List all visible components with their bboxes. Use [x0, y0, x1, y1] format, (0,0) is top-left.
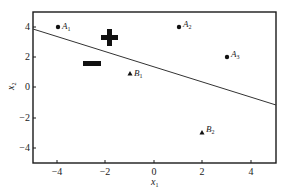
x-tick-label: 4 — [249, 166, 254, 177]
y-axis: 4 2 0 −2 −4 x2 — [5, 21, 36, 153]
point-b1: B1 — [128, 68, 143, 79]
point-a3: A3 — [225, 49, 240, 60]
plus-sign-icon — [101, 29, 118, 46]
scatter-chart: −4 −2 0 2 4 x1 4 2 0 −2 −4 x2 A1 A2 A3 — [0, 0, 284, 192]
circle-marker-icon — [56, 25, 60, 29]
y-tick-label: 2 — [25, 51, 30, 62]
x-axis: −4 −2 0 2 4 x1 — [52, 160, 254, 188]
point-a1: A1 — [56, 21, 71, 32]
minus-sign-icon — [83, 61, 101, 66]
y-tick-label: −4 — [19, 142, 30, 153]
point-a2: A2 — [177, 19, 192, 30]
point-label: B2 — [206, 124, 215, 135]
x-axis-label: x1 — [150, 176, 158, 188]
x-tick-label: −4 — [52, 166, 63, 177]
point-label: A2 — [182, 19, 192, 30]
point-label: B1 — [134, 68, 143, 79]
x-tick-label: −2 — [100, 166, 111, 177]
circle-marker-icon — [225, 55, 229, 59]
decision-line — [33, 29, 276, 105]
circle-marker-icon — [177, 25, 181, 29]
y-axis-label: x2 — [5, 83, 17, 91]
y-tick-label: 4 — [25, 21, 30, 32]
point-label: A3 — [230, 49, 240, 60]
plot-frame — [33, 12, 276, 163]
x-tick-label: 2 — [200, 166, 205, 177]
point-label: A1 — [61, 21, 71, 32]
triangle-marker-icon — [128, 71, 133, 76]
triangle-marker-icon — [200, 130, 205, 135]
y-tick-label: −2 — [19, 112, 30, 123]
y-tick-label: 0 — [25, 81, 30, 92]
point-b2: B2 — [200, 124, 215, 135]
